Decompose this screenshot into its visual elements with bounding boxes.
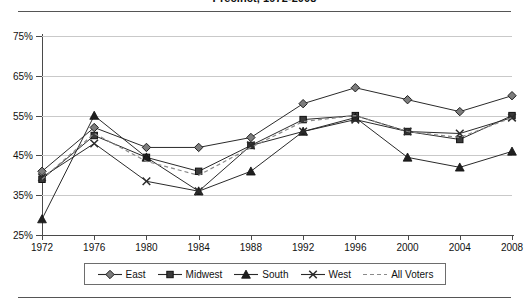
x-axis-label: 1972	[31, 242, 53, 253]
x-axis-label: 2004	[449, 242, 471, 253]
footer-divider	[18, 297, 511, 298]
chart-legend: EastMidwestSouthWestAll Voters	[84, 263, 446, 285]
y-axis-label: 25%	[0, 230, 33, 241]
title-divider	[18, 11, 511, 12]
x-axis-label: 1976	[83, 242, 105, 253]
gridline	[42, 155, 512, 156]
diamond-marker-icon	[97, 269, 123, 280]
gridline	[42, 116, 512, 117]
y-axis-label: 55%	[0, 110, 33, 121]
x-axis-label: 2008	[501, 242, 523, 253]
x-axis-tick	[355, 235, 356, 240]
x-axis-tick	[408, 235, 409, 240]
legend-label: East	[126, 269, 146, 280]
y-axis-tick	[36, 76, 42, 77]
y-axis-tick	[36, 155, 42, 156]
legend-label: West	[329, 269, 352, 280]
y-axis-label: 65%	[0, 70, 33, 81]
x-axis-tick	[42, 235, 43, 240]
chart-title: Precinct, 1972-2008	[0, 0, 529, 4]
x-axis-label: 1992	[292, 242, 314, 253]
x-axis-tick	[512, 235, 513, 240]
plot-area	[42, 36, 512, 235]
x-axis-label: 1996	[344, 242, 366, 253]
y-axis-label: 35%	[0, 190, 33, 201]
triangle-marker-icon	[233, 269, 259, 280]
legend-item-all-voters[interactable]: All Voters	[362, 269, 433, 280]
y-axis-label: 45%	[0, 150, 33, 161]
legend-item-south[interactable]: South	[233, 269, 288, 280]
x-axis-tick	[460, 235, 461, 240]
y-axis-label: 75%	[0, 31, 33, 42]
square-marker-icon	[157, 269, 183, 280]
legend-label: South	[262, 269, 288, 280]
gridline	[42, 36, 512, 37]
x-axis-label: 1984	[188, 242, 210, 253]
x-axis-label: 1988	[240, 242, 262, 253]
x-marker-icon	[300, 269, 326, 280]
legend-item-west[interactable]: West	[300, 269, 352, 280]
x-axis-tick	[303, 235, 304, 240]
gridline	[42, 76, 512, 77]
x-axis-tick	[251, 235, 252, 240]
y-axis-tick	[36, 36, 42, 37]
legend-label: Midwest	[186, 269, 223, 280]
chart-figure: Precinct, 1972-2008 25%35%45%55%65%75% 1…	[0, 0, 529, 305]
dashed-line-icon	[362, 269, 388, 280]
gridline	[42, 195, 512, 196]
x-axis-tick	[199, 235, 200, 240]
x-axis-tick	[94, 235, 95, 240]
x-axis-line	[40, 235, 514, 236]
y-axis-tick	[36, 116, 42, 117]
legend-item-east[interactable]: East	[97, 269, 146, 280]
x-axis-tick	[146, 235, 147, 240]
y-axis-tick	[36, 195, 42, 196]
x-axis-label: 1980	[135, 242, 157, 253]
x-axis-label: 2000	[396, 242, 418, 253]
legend-item-midwest[interactable]: Midwest	[157, 269, 223, 280]
legend-label: All Voters	[391, 269, 433, 280]
